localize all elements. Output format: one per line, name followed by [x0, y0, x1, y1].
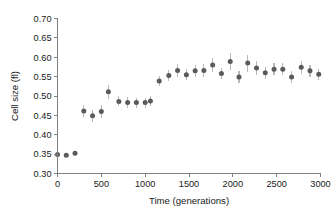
data-point	[175, 68, 180, 73]
data-point	[210, 63, 215, 68]
data-point	[201, 68, 206, 73]
data-point	[148, 99, 153, 104]
y-axis-title: Cell size (fl)	[9, 71, 20, 121]
x-axis-tick-label: 1000	[135, 179, 155, 189]
errorbar-layer	[58, 53, 319, 156]
data-point	[280, 67, 285, 72]
data-point	[263, 70, 268, 75]
y-axis-tick-label: 0.50	[34, 91, 52, 101]
y-axis-tick-label: 0.30	[34, 169, 52, 179]
data-point	[106, 89, 111, 94]
data-point	[316, 72, 321, 77]
data-point	[184, 72, 189, 77]
data-point	[73, 151, 78, 156]
data-point	[193, 68, 198, 73]
x-axis-tick-label: 2000	[223, 179, 243, 189]
y-axis-tick-label: 0.60	[34, 53, 52, 63]
data-point	[64, 153, 69, 158]
data-point	[236, 75, 241, 80]
cell-size-scatter-plot: 0.300.350.400.450.500.550.600.650.700500…	[0, 0, 333, 215]
chart-figure: 0.300.350.400.450.500.550.600.650.700500…	[0, 0, 333, 215]
axes-layer	[54, 19, 321, 178]
data-point	[219, 71, 224, 76]
data-point	[99, 109, 104, 114]
x-axis-tick-label: 0	[55, 179, 60, 189]
y-axis-tick-label: 0.55	[34, 72, 52, 82]
y-axis-tick-label: 0.45	[34, 111, 52, 121]
data-point	[116, 99, 121, 104]
data-point	[166, 73, 171, 78]
data-point	[143, 100, 148, 105]
data-point	[134, 100, 139, 105]
x-axis-tick-label: 1500	[179, 179, 199, 189]
x-axis-title: Time (generations)	[149, 195, 229, 206]
data-point	[228, 59, 233, 64]
data-point	[125, 100, 130, 105]
data-point	[289, 75, 294, 80]
y-axis-tick-label: 0.40	[34, 130, 52, 140]
y-axis-tick-label: 0.35	[34, 149, 52, 159]
x-axis-tick-label: 2500	[266, 179, 286, 189]
data-point	[272, 67, 277, 72]
data-point	[307, 68, 312, 73]
data-point	[245, 61, 250, 66]
data-markers-layer	[55, 59, 321, 158]
y-axis-tick-label: 0.65	[34, 33, 52, 43]
data-point	[299, 65, 304, 70]
data-point	[254, 66, 259, 71]
data-point	[157, 78, 162, 83]
data-point	[90, 113, 95, 118]
data-point	[81, 109, 86, 114]
x-axis-tick-label: 500	[94, 179, 109, 189]
y-axis-tick-label: 0.70	[34, 14, 52, 24]
x-axis-tick-label: 3000	[310, 179, 330, 189]
